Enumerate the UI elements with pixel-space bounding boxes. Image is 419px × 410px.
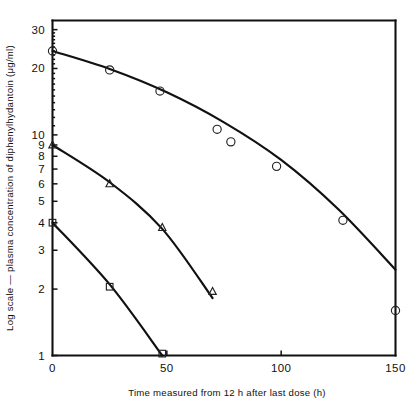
fitted-curves xyxy=(53,51,396,355)
figure-container: 123456789102030050100150 Time measured f… xyxy=(0,0,419,410)
data-point-circle xyxy=(272,162,280,170)
y-tick-label: 2 xyxy=(38,283,45,295)
y-tick-label: 3 xyxy=(38,244,45,256)
axis-frame xyxy=(53,21,396,356)
y-axis-title: Log scale — plasma concentration of diph… xyxy=(4,45,15,331)
x-tick-label: 0 xyxy=(49,362,56,374)
axis-ticks xyxy=(53,30,282,356)
y-tick-label: 5 xyxy=(38,195,45,207)
y-tick-label: 10 xyxy=(31,129,45,141)
axis-tick-labels: 123456789102030050100150 xyxy=(31,24,405,374)
x-axis-title: Time measured from 12 h after last dose … xyxy=(128,387,326,398)
y-tick-label: 8 xyxy=(38,150,45,162)
curve-series-3 xyxy=(53,223,163,356)
y-tick-label: 6 xyxy=(38,178,45,190)
curve-series-1 xyxy=(53,51,396,270)
x-tick-label: 50 xyxy=(160,362,174,374)
log-scale-concentration-chart: 123456789102030050100150 Time measured f… xyxy=(0,0,419,410)
curve-series-2 xyxy=(53,145,213,298)
y-tick-label: 7 xyxy=(38,163,45,175)
data-point-circle xyxy=(227,138,235,146)
x-tick-label: 150 xyxy=(385,362,405,374)
data-point-markers xyxy=(48,47,399,357)
data-point-circle xyxy=(339,216,347,224)
y-tick-label: 30 xyxy=(31,24,45,36)
data-point-circle xyxy=(213,125,221,133)
x-tick-label: 100 xyxy=(271,362,291,374)
data-point-triangle xyxy=(209,288,216,295)
y-tick-label: 1 xyxy=(38,350,45,362)
y-tick-label: 4 xyxy=(38,217,45,229)
y-tick-label: 20 xyxy=(31,62,45,74)
